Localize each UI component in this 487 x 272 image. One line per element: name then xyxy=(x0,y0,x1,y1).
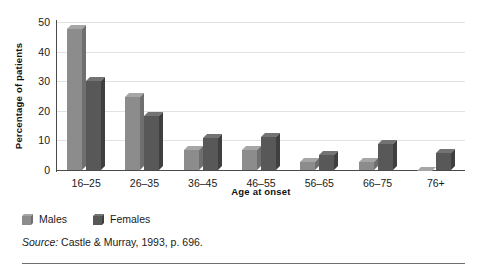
bottom-divider xyxy=(22,263,465,264)
bar-females[interactable] xyxy=(203,134,222,170)
bar-males[interactable] xyxy=(67,25,86,170)
bar-group: 46–55 xyxy=(232,22,290,170)
bar-males[interactable] xyxy=(184,146,203,170)
source-prefix: Source: xyxy=(22,236,58,248)
y-axis-tick-label: 50 xyxy=(38,16,57,28)
x-axis-line xyxy=(56,170,465,171)
bar-males[interactable] xyxy=(300,158,319,170)
bar-females[interactable] xyxy=(144,112,163,170)
legend: Males Females xyxy=(22,213,150,225)
legend-label-females: Females xyxy=(110,213,150,225)
y-axis-tick-label: 0 xyxy=(44,164,57,176)
bar-females[interactable] xyxy=(319,151,338,170)
legend-item-males[interactable]: Males xyxy=(22,213,67,225)
legend-item-females[interactable]: Females xyxy=(93,213,150,225)
source-caption: Source: Castle & Murray, 1993, p. 696. xyxy=(22,236,203,248)
bar-females[interactable] xyxy=(436,149,455,170)
legend-swatch-males-icon xyxy=(22,214,33,225)
bar-females[interactable] xyxy=(261,133,280,170)
bar-males[interactable] xyxy=(359,158,378,170)
y-axis-title: Percentage of patients xyxy=(12,22,24,170)
bar-females[interactable] xyxy=(378,140,397,170)
bar-groups: 16–2526–3536–4546–5556–6566–7576+ xyxy=(57,22,465,170)
figure-container: Percentage of patients 01020304050 16–25… xyxy=(0,0,487,272)
legend-label-males: Males xyxy=(39,213,67,225)
bar-females[interactable] xyxy=(86,77,105,170)
y-axis-tick-label: 40 xyxy=(38,46,57,58)
bar-group: 76+ xyxy=(407,22,465,170)
bar-males[interactable] xyxy=(242,146,261,170)
plot-area: 01020304050 16–2526–3536–4546–5556–6566–… xyxy=(57,22,465,170)
bar-group: 36–45 xyxy=(174,22,232,170)
bar-group: 66–75 xyxy=(348,22,406,170)
legend-swatch-females-icon xyxy=(93,214,104,225)
bar-group: 16–25 xyxy=(57,22,115,170)
y-axis-tick-label: 10 xyxy=(38,134,57,146)
source-text: Castle & Murray, 1993, p. 696. xyxy=(58,236,203,248)
bar-males[interactable] xyxy=(125,93,144,170)
bar-group: 56–65 xyxy=(290,22,348,170)
bar-males[interactable] xyxy=(417,167,436,170)
y-axis-tick-label: 20 xyxy=(38,105,57,117)
bar-group: 26–35 xyxy=(115,22,173,170)
y-axis-tick-label: 30 xyxy=(38,75,57,87)
x-axis-title: Age at onset xyxy=(57,186,465,197)
